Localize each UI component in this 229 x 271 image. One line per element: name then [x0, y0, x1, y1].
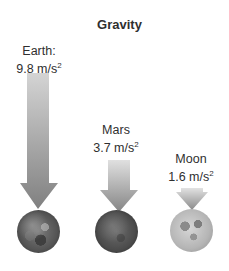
mars-value: 3.7 m/s2	[83, 139, 149, 157]
mars-planet-image	[95, 210, 138, 253]
moon-label: Moon 1.6 m/s2	[158, 150, 224, 186]
moon-planet-image	[170, 209, 213, 252]
diagram-title: Gravity	[0, 17, 229, 32]
earth-gravity-arrow-icon	[20, 73, 58, 210]
mars-name: Mars	[83, 121, 149, 139]
earth-planet-image	[17, 210, 60, 253]
moon-value: 1.6 m/s2	[158, 168, 224, 186]
moon-gravity-arrow-icon	[176, 188, 208, 210]
earth-name: Earth:	[6, 42, 72, 60]
moon-name: Moon	[158, 150, 224, 168]
mars-gravity-arrow-icon	[100, 160, 138, 212]
mars-label: Mars 3.7 m/s2	[83, 121, 149, 157]
